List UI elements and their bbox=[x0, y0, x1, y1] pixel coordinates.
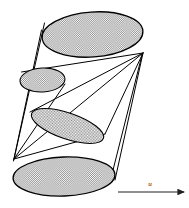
flow-annotation-group: u bbox=[118, 180, 184, 192]
apex-right-to-middle bbox=[105, 53, 143, 134]
cross-sections-group bbox=[12, 9, 144, 198]
generator-right-inner bbox=[110, 55, 142, 182]
figure-canvas: u bbox=[0, 0, 189, 208]
middle-cross-section bbox=[27, 101, 107, 150]
generator-left-inner bbox=[14, 30, 42, 161]
bottom-cross-section bbox=[12, 155, 115, 198]
flow-label: u bbox=[148, 180, 152, 188]
cone-cross-section-figure: u bbox=[0, 0, 189, 208]
top-cross-section bbox=[41, 9, 145, 61]
